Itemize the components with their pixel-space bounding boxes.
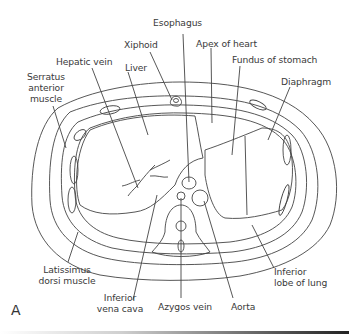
label-line: vena cava <box>95 303 145 314</box>
label-diaphragm: Diaphragm <box>281 76 331 87</box>
label-fundus-of-stomach: Fundus of stomach <box>232 54 317 65</box>
label-liver: Liver <box>125 62 147 73</box>
rib-slip <box>248 98 267 112</box>
body-outline <box>32 82 337 280</box>
label-line: Inferior <box>95 292 145 303</box>
label-azygos-vein: Azygos vein <box>158 301 212 312</box>
anatomy-diagram: Esophagus Xiphoid Apex of heart Hepatic … <box>0 0 349 334</box>
label-xiphoid: Xiphoid <box>124 39 158 50</box>
label-latissimus-dorsi-muscle: Latissimus dorsi muscle <box>38 264 96 286</box>
aorta-ring <box>192 190 208 206</box>
panel-label: A <box>11 302 21 318</box>
label-esophagus: Esophagus <box>153 17 202 28</box>
serratus-slip <box>68 187 76 213</box>
label-line: Latissimus <box>38 264 96 275</box>
label-serratus-anterior-muscle: Serratus anterior muscle <box>24 71 68 104</box>
leader-lines <box>53 34 290 300</box>
label-inferior-lobe-of-lung: Inferior lobe of lung <box>274 266 327 288</box>
label-line: Inferior <box>274 266 327 277</box>
label-line: anterior <box>24 82 68 93</box>
label-hepatic-vein: Hepatic vein <box>56 56 112 67</box>
rib-slip <box>277 184 291 216</box>
label-line: lobe of lung <box>274 277 327 288</box>
label-line: muscle <box>24 93 68 104</box>
label-line: dorsi muscle <box>38 275 96 286</box>
label-aorta: Aorta <box>231 301 255 312</box>
xiphoid-inner <box>174 99 179 103</box>
heart-stomach-divider <box>245 136 247 215</box>
label-inferior-vena-cava: Inferior vena cava <box>95 292 145 314</box>
label-apex-of-heart: Apex of heart <box>196 38 257 49</box>
label-line: Serratus <box>24 71 68 82</box>
